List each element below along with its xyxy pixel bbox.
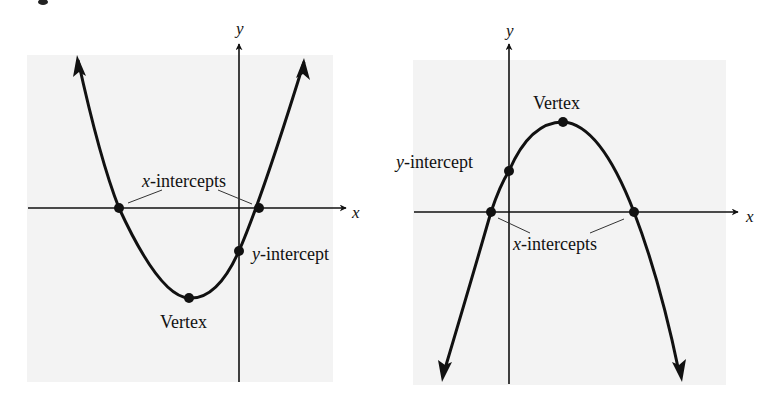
right-x-intercepts-var: x [512, 234, 521, 254]
left-x-intercept-point-2 [254, 203, 264, 213]
right-y-axis-label: y [504, 21, 514, 40]
right-vertex-point [558, 117, 568, 127]
left-vertex-point [184, 293, 194, 303]
right-x-intercepts-text: -intercepts [521, 234, 597, 254]
right-x-intercept-point-2 [629, 207, 639, 217]
left-x-intercepts-text: -intercepts [150, 171, 226, 191]
right-y-intercept-text: -intercept [404, 152, 473, 172]
right-y-intercept-point [504, 166, 514, 176]
left-x-axis-label: x [351, 203, 360, 222]
figure-canvas: y x x-intercepts y-intercept Vertex [0, 0, 768, 403]
parabola-figure: y x x-intercepts y-intercept Vertex [0, 0, 768, 403]
left-y-intercept-text: -intercept [260, 244, 329, 264]
right-x-axis-label: x [745, 207, 754, 226]
right-x-intercept-point-1 [486, 207, 496, 217]
right-graph: y x Vertex y-intercept x-intercepts [394, 21, 754, 385]
right-vertex-label: Vertex [533, 93, 580, 113]
left-y-intercept-var: y [250, 244, 260, 264]
left-y-intercept-point [234, 246, 244, 256]
left-y-axis-label: y [234, 19, 244, 38]
right-x-intercepts-label: x-intercepts [512, 234, 597, 254]
left-graph-panel [27, 55, 333, 382]
left-x-intercept-point-1 [114, 203, 124, 213]
cropped-glyph [38, 0, 48, 5]
left-vertex-label: Vertex [160, 312, 207, 332]
left-x-intercepts-var: x [141, 171, 150, 191]
left-y-intercept-label: y-intercept [250, 244, 329, 264]
left-graph: y x x-intercepts y-intercept Vertex [27, 19, 360, 382]
left-x-intercepts-label: x-intercepts [141, 171, 226, 191]
right-y-intercept-var: y [394, 152, 404, 172]
right-y-intercept-label: y-intercept [394, 152, 473, 172]
